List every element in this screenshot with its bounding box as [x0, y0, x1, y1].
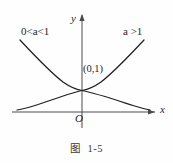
- origin-label: O: [75, 113, 83, 124]
- figure-container: 0<a<1 a >1 (0,1) y x O 图1-5: [0, 0, 173, 163]
- x-axis: [12, 109, 155, 114]
- label-intersection-point: (0,1): [83, 64, 103, 75]
- figure-caption: 图1-5: [0, 140, 173, 155]
- x-axis-label: x: [160, 104, 165, 115]
- label-left-branch: 0<a<1: [21, 26, 49, 37]
- caption-number: 1-5: [88, 143, 104, 154]
- y-axis-label: y: [71, 13, 76, 24]
- curve-increasing-a-gt-1: [17, 40, 144, 110]
- caption-prefix: 图: [70, 143, 81, 154]
- label-right-branch: a >1: [123, 26, 142, 37]
- curve-decreasing-0-a-1: [20, 40, 150, 110]
- y-axis-arrow: [79, 14, 84, 21]
